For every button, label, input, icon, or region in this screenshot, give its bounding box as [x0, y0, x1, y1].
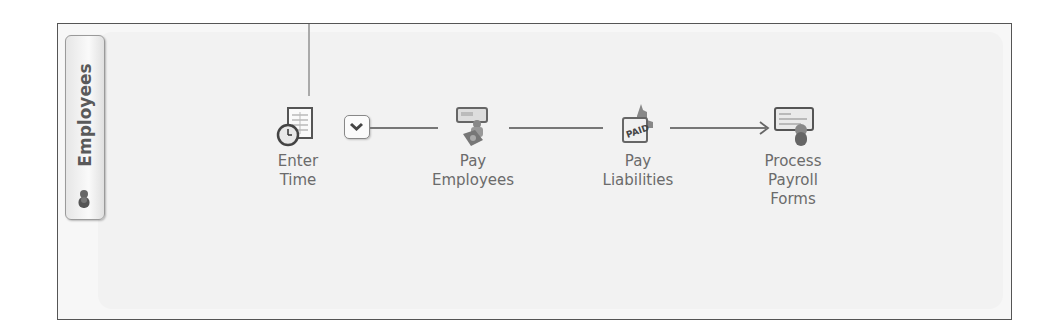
- payroll-workflow-frame: Employees Enter Time: [57, 23, 1012, 320]
- employees-tab[interactable]: Employees: [65, 35, 105, 220]
- process-payroll-forms-label-2: Payroll: [743, 171, 843, 190]
- enter-time-node[interactable]: Enter Time: [263, 106, 333, 190]
- paycheck-person-icon: [453, 104, 493, 148]
- chevron-down-icon: [345, 116, 368, 137]
- people-icon: [77, 189, 91, 209]
- timesheet-clock-icon: [276, 106, 320, 148]
- paid-stamp-capitol-icon: PAID: [613, 102, 663, 148]
- pay-liabilities-node[interactable]: PAID Pay Liabilities: [588, 102, 688, 190]
- pay-employees-label-1: Pay: [423, 152, 523, 171]
- process-payroll-forms-node[interactable]: Process Payroll Forms: [743, 104, 843, 209]
- incoming-connector: [308, 24, 310, 96]
- pay-liabilities-label-2: Liabilities: [588, 171, 688, 190]
- enter-time-dropdown-button[interactable]: [344, 115, 370, 139]
- process-payroll-forms-label-1: Process: [743, 152, 843, 171]
- employees-tab-label: Employees: [75, 63, 95, 192]
- payroll-form-icon: [771, 104, 815, 148]
- pay-liabilities-label-1: Pay: [588, 152, 688, 171]
- process-payroll-forms-label-3: Forms: [743, 190, 843, 209]
- pay-employees-node[interactable]: Pay Employees: [423, 104, 523, 190]
- enter-time-label-2: Time: [263, 171, 333, 190]
- pay-employees-label-2: Employees: [423, 171, 523, 190]
- enter-time-label-1: Enter: [263, 152, 333, 171]
- employees-panel: [98, 32, 1003, 309]
